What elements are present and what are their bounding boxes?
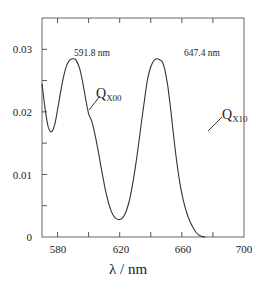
x-axis-title: λ / nm xyxy=(109,261,147,277)
qx00-label: QX00 xyxy=(96,86,122,103)
y-tick-label-0: 0 xyxy=(27,231,33,243)
peak-label-647: 647.4 nm xyxy=(184,48,221,58)
y-tick-label-001: 0.01 xyxy=(13,169,32,181)
qx10-leader-line xyxy=(208,117,222,131)
x-tick-label-620: 620 xyxy=(113,243,130,255)
absorption-spectrum-chart: 0 0.01 0.02 0.03 580 620 660 700 λ / nm … xyxy=(0,0,264,285)
y-tick-label-002: 0.02 xyxy=(13,106,32,118)
x-tick-label-660: 660 xyxy=(175,243,192,255)
peak-label-591: 591.8 nm xyxy=(74,48,111,58)
spectrum-line xyxy=(42,59,205,237)
x-tick-label-700: 700 xyxy=(236,243,253,255)
x-tick-label-580: 580 xyxy=(50,243,67,255)
y-tick-label-003: 0.03 xyxy=(13,43,33,55)
